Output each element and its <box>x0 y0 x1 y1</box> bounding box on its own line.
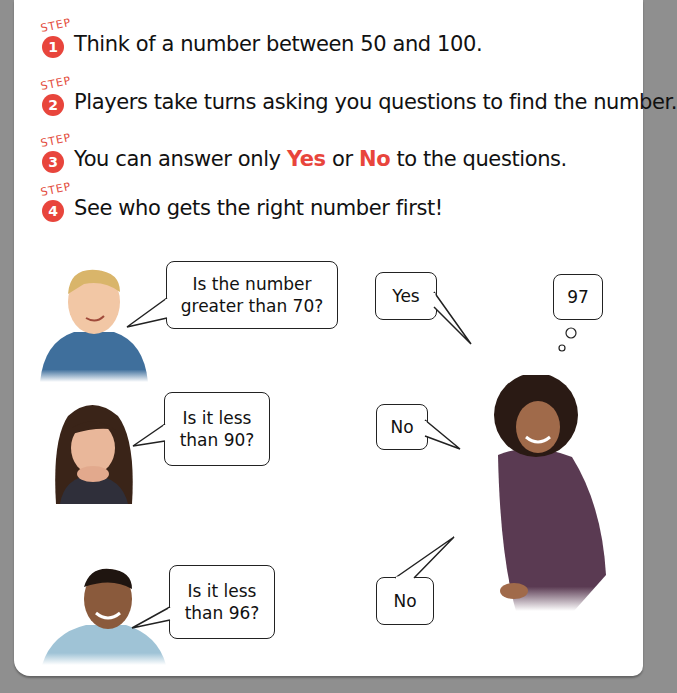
question-bubble-2: Is it less than 90? <box>164 392 270 466</box>
no-highlight: No <box>359 147 390 171</box>
step-text: Players take turns asking you questions … <box>74 90 677 114</box>
answer-3-text: No <box>393 590 416 612</box>
step-3: STEP 3 You can answer only Yes or No to … <box>42 137 642 181</box>
answer-2-text: No <box>390 416 413 438</box>
step-1: STEP 1 Think of a number between 50 and … <box>42 22 642 66</box>
boy-blond-photo <box>34 262 152 384</box>
step-number-badge: 1 <box>42 36 64 58</box>
question-2-line-2: than 90? <box>180 429 255 451</box>
answer-bubble-no-1: No <box>376 404 428 450</box>
question-1-line-2: greater than 70? <box>181 295 324 317</box>
step-number-badge: 2 <box>42 94 64 116</box>
question-2-line-1: Is it less <box>183 407 252 429</box>
girl-curly-hair-photo <box>462 375 612 615</box>
thought-number: 97 <box>567 286 589 308</box>
boy-smiling-photo <box>42 565 166 665</box>
step-4: STEP 4 See who gets the right number fir… <box>42 186 642 230</box>
question-3-line-2: than 96? <box>185 602 260 624</box>
step-text: You can answer only Yes or No to the que… <box>74 147 567 171</box>
yes-highlight: Yes <box>287 147 326 171</box>
step-number-badge: 3 <box>42 151 64 173</box>
thought-bubble-97: 97 <box>553 274 603 320</box>
answer-bubble-no-2: No <box>376 577 434 625</box>
step-2: STEP 2 Players take turns asking you que… <box>42 80 642 124</box>
girl-brown-hair-photo <box>48 400 138 504</box>
step-text: See who gets the right number first! <box>74 196 443 220</box>
question-bubble-1: Is the number greater than 70? <box>166 261 338 329</box>
step-number-badge: 4 <box>42 200 64 222</box>
question-3-line-1: Is it less <box>188 580 257 602</box>
step-text: Think of a number between 50 and 100. <box>74 32 482 56</box>
question-1-line-1: Is the number <box>193 273 312 295</box>
answer-1-text: Yes <box>392 285 419 307</box>
answer-bubble-yes: Yes <box>375 272 437 320</box>
question-bubble-3: Is it less than 96? <box>169 565 275 639</box>
